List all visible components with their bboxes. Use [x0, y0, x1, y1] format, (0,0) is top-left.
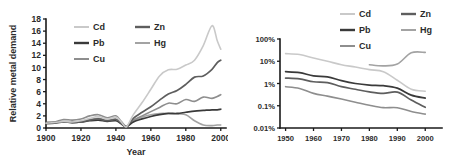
y-tick-label: 18 [32, 14, 42, 24]
x-tick-label: 1970 [333, 134, 350, 143]
x-tick-label: 1980 [176, 133, 195, 143]
x-tick-label: 2000 [417, 134, 434, 143]
legend-label-zn: Zn [420, 9, 431, 19]
legend-item-pb: Pb [74, 38, 105, 48]
x-tick-label: 1900 [37, 133, 56, 143]
legend-label-pb: Pb [359, 25, 371, 35]
metal-percentage-chart: 0.01%0.1%1%10%100%1950196019701980199020… [228, 0, 455, 165]
legend-item-cd: Cd [340, 9, 371, 19]
x-tick-label: 1990 [389, 134, 406, 143]
legend-label-pb: Pb [93, 38, 105, 48]
legend-item-hg: Hg [135, 38, 166, 48]
y-tick-label: 0.01% [253, 124, 275, 133]
relative-metal-demand-chart: 024681012141618190019201940196019802000Y… [0, 0, 228, 165]
x-tick-label: 1980 [361, 134, 378, 143]
legend-item-cu: Cu [74, 54, 105, 64]
chart-legend: CdZnPbHgCu [74, 22, 166, 64]
legend-label-cu: Cu [359, 41, 371, 51]
y-tick-label: 12 [32, 50, 42, 60]
y-tick-label: 10% [260, 57, 275, 66]
x-tick-label: 1940 [106, 133, 125, 143]
chart-legend: CdZnPbHgCu [340, 9, 432, 51]
y-tick-label: 16 [32, 26, 42, 36]
chart-panel-left: 024681012141618190019201940196019802000Y… [0, 0, 228, 165]
legend-label-cd: Cd [359, 9, 371, 19]
y-tick-label: 6 [36, 87, 41, 97]
legend-item-zn: Zn [401, 9, 431, 19]
legend-item-zn: Zn [135, 22, 165, 32]
y-tick-label: 1% [264, 80, 275, 89]
series-line-zn [46, 60, 221, 127]
y-tick-label: 10 [32, 63, 42, 73]
legend-label-cu: Cu [93, 54, 105, 64]
legend-label-hg: Hg [154, 38, 166, 48]
legend-label-hg: Hg [420, 25, 432, 35]
y-tick-label: 2 [36, 111, 41, 121]
y-tick-label: 14 [32, 38, 42, 48]
x-tick-label: 1960 [305, 134, 322, 143]
metal-demand-figure: 024681012141618190019201940196019802000Y… [0, 0, 455, 165]
series-line-hg [369, 52, 425, 66]
x-tick-label: 1960 [141, 133, 160, 143]
y-tick-label: 8 [36, 75, 41, 85]
x-tick-label: 1920 [71, 133, 90, 143]
y-tick-label: 4 [36, 99, 41, 109]
legend-item-pb: Pb [340, 25, 371, 35]
legend-item-hg: Hg [401, 25, 432, 35]
chart-panel-right: 0.01%0.1%1%10%100%1950196019701980199020… [228, 0, 455, 165]
x-tick-label: 2000 [211, 133, 228, 143]
legend-item-cu: Cu [340, 41, 371, 51]
y-tick-label: 0.1% [258, 102, 276, 111]
y-tick-label: 100% [256, 35, 276, 44]
x-axis-title: Year [126, 147, 146, 157]
legend-item-cd: Cd [74, 22, 105, 32]
y-axis-title: Relative metal demand [8, 25, 18, 123]
legend-label-cd: Cd [93, 22, 105, 32]
y-tick-label: 0 [36, 123, 41, 133]
legend-label-zn: Zn [154, 22, 165, 32]
x-tick-label: 1950 [277, 134, 294, 143]
